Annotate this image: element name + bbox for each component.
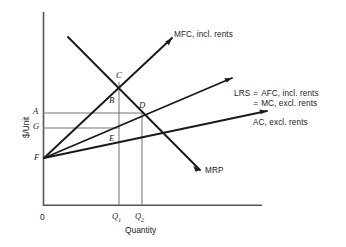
curve-label-ac: AC, excl. rents <box>253 118 308 128</box>
curve-mfc-incl-rents <box>44 38 172 158</box>
y-axis-title: $/Unit <box>22 117 32 138</box>
x-tick-q1-subscript: 1 <box>118 216 121 223</box>
curve-label-lrs-value2: MC, excl. rents <box>261 99 319 109</box>
curve-label-mfc: MFC, incl. rents <box>174 30 233 40</box>
x-tick-q2-subscript: 2 <box>141 216 144 223</box>
curve-mrp <box>68 37 200 170</box>
x-axis-title: Quantity <box>125 226 156 236</box>
point-label-f: F <box>34 152 39 162</box>
economics-diagram-figure: $/Unit Quantity 0 Q1 Q2 A G C B D E F MF… <box>0 0 346 247</box>
point-label-e: E <box>109 133 114 143</box>
curve-label-lrs-grid: LRS = AFC, incl. rents = MC, excl. rents <box>234 89 319 108</box>
point-label-d: D <box>139 100 145 110</box>
curve-label-lrs-spacer <box>234 99 250 109</box>
curve-label-mrp: MRP <box>205 166 224 176</box>
curve-label-lrs-value1: AFC, incl. rents <box>261 89 319 99</box>
curve-label-lrs-name: LRS <box>234 89 250 99</box>
point-label-c: C <box>116 70 122 80</box>
x-tick-label-q1: Q1 <box>112 212 121 223</box>
point-label-b: B <box>109 95 114 105</box>
curve-lrs-afc-mc <box>44 78 232 158</box>
y-tick-label-a: A <box>33 106 38 116</box>
curve-label-lrs-eq2: = <box>253 99 258 109</box>
curve-label-lrs-eq1: = <box>253 89 258 99</box>
origin-label: 0 <box>40 213 45 223</box>
x-tick-label-q2: Q2 <box>135 212 144 223</box>
y-tick-label-g: G <box>33 121 39 131</box>
